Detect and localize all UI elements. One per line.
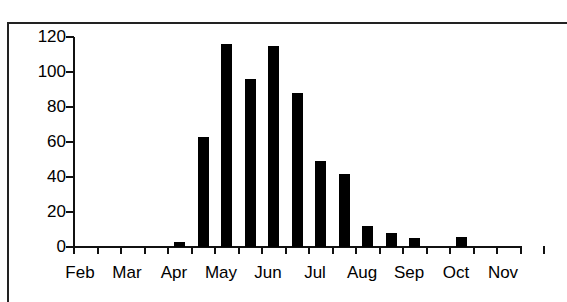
x-tick (97, 246, 99, 254)
bar (198, 137, 209, 247)
x-tick-label: Jul (304, 264, 326, 281)
x-tick-label: May (205, 264, 237, 281)
chart-frame (7, 22, 567, 302)
y-tick-label: 0 (14, 238, 66, 255)
x-tick (308, 246, 310, 254)
x-tick-label: Sep (394, 264, 424, 281)
x-tick (355, 246, 357, 254)
x-tick (379, 246, 381, 254)
x-tick-label: Mar (112, 264, 141, 281)
x-tick (332, 246, 334, 254)
y-tick-label: 80 (14, 98, 66, 115)
y-tick-label: 120 (14, 28, 66, 45)
y-tick (66, 141, 74, 143)
y-tick (66, 106, 74, 108)
bar (221, 44, 232, 247)
x-tick (214, 246, 216, 254)
x-tick-label: Oct (443, 264, 469, 281)
x-tick (238, 246, 240, 254)
x-tick (543, 246, 545, 254)
x-tick (285, 246, 287, 254)
x-tick (73, 246, 75, 254)
x-tick-label: Aug (347, 264, 377, 281)
x-tick (120, 246, 122, 254)
x-tick-label: Feb (65, 264, 94, 281)
y-tick-label: 20 (14, 203, 66, 220)
x-tick (520, 246, 522, 254)
bar (456, 237, 467, 248)
y-tick (66, 36, 74, 38)
x-tick (496, 246, 498, 254)
x-tick-label: Nov (488, 264, 518, 281)
x-tick-label: Jun (254, 264, 281, 281)
y-tick (66, 71, 74, 73)
y-tick-label: 60 (14, 133, 66, 150)
x-tick-label: Apr (161, 264, 187, 281)
x-tick (402, 246, 404, 254)
x-tick (261, 246, 263, 254)
x-tick (167, 246, 169, 254)
x-tick (144, 246, 146, 254)
x-tick (191, 246, 193, 254)
bar (409, 238, 420, 247)
bar (386, 233, 397, 247)
bar (339, 174, 350, 248)
y-tick (66, 211, 74, 213)
y-tick (66, 176, 74, 178)
y-tick-label: 100 (14, 63, 66, 80)
x-tick (426, 246, 428, 254)
y-tick-label: 40 (14, 168, 66, 185)
x-tick (449, 246, 451, 254)
bar (174, 242, 185, 247)
x-tick (473, 246, 475, 254)
bar (315, 161, 326, 247)
bar (292, 93, 303, 247)
bar (245, 79, 256, 247)
bar (268, 46, 279, 247)
bar (362, 226, 373, 247)
